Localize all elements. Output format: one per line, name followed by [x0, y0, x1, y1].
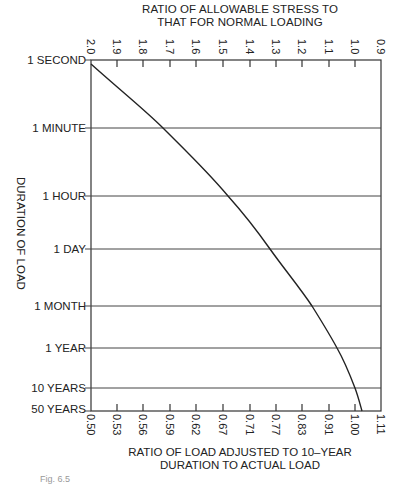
top-tick-label: 0.9	[375, 39, 387, 54]
bottom-tick-label: 0.83	[296, 414, 308, 435]
bottom-tick-label: 0.67	[217, 414, 229, 435]
bottom-tick-label: 0.91	[323, 414, 335, 435]
bottom-tick-label: 0.77	[270, 414, 282, 435]
bottom-tick-label: 1.11	[375, 414, 387, 435]
y-label-1-month: 1 MONTH	[34, 300, 86, 312]
top-axis-ticks	[117, 60, 355, 67]
top-tick-label: 1.6	[190, 39, 202, 54]
bottom-tick-label: 0.59	[164, 414, 176, 435]
bottom-tick-label: 1.00	[349, 414, 361, 435]
top-tick-label: 1.7	[164, 39, 176, 54]
top-tick-label: 1.3	[270, 39, 282, 54]
top-tick-label: 1.9	[111, 39, 123, 54]
y-label-10-years: 10 YEARS	[31, 382, 86, 394]
figure-caption: Fig. 6.5	[40, 474, 70, 484]
bottom-tick-label: 0.71	[244, 414, 256, 435]
bottom-axis-ticks	[117, 404, 355, 411]
top-tick-label: 1.1	[323, 39, 335, 54]
bottom-tick-label: 0.56	[137, 414, 149, 435]
top-tick-label: 1.4	[244, 39, 256, 54]
y-label-1-minute: 1 MINUTE	[32, 122, 86, 134]
bottom-axis-title-line-1: RATIO OF LOAD ADJUSTED TO 10–YEAR	[90, 446, 390, 459]
bottom-axis-title: RATIO OF LOAD ADJUSTED TO 10–YEAR DURATI…	[90, 446, 390, 472]
y-label-1-day: 1 DAY	[54, 243, 86, 255]
top-tick-label: 1.2	[296, 39, 308, 54]
top-tick-label: 1.5	[217, 39, 229, 54]
y-label-1-hour: 1 HOUR	[43, 190, 86, 202]
bottom-tick-label: 0.50	[85, 414, 97, 435]
top-tick-label: 1.0	[349, 39, 361, 54]
duration-curve	[91, 64, 362, 411]
bottom-tick-label: 0.53	[111, 414, 123, 435]
grid-lines	[85, 60, 381, 411]
top-tick-label: 2.0	[85, 39, 97, 54]
y-label-1-second: 1 SECOND	[27, 54, 86, 66]
bottom-axis-title-line-2: DURATION TO ACTUAL LOAD	[90, 459, 390, 472]
y-label-1-year: 1 YEAR	[45, 342, 86, 354]
plot-frame	[91, 60, 381, 411]
top-tick-label: 1.8	[137, 39, 149, 54]
bottom-tick-label: 0.62	[190, 414, 202, 435]
y-label-50-years: 50 YEARS	[31, 403, 86, 415]
